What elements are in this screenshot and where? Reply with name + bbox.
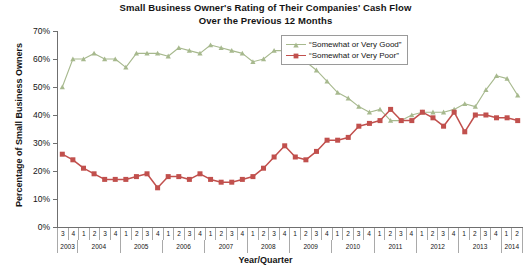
- x-axis-quarter-cell: 1: [459, 228, 470, 240]
- x-axis-quarter-cell: 2: [385, 228, 396, 240]
- chart-title: Small Business Owner's Rating of Their C…: [0, 2, 531, 27]
- data-point-square: [420, 110, 425, 115]
- data-point-square: [155, 185, 160, 190]
- data-point-triangle: [208, 42, 213, 47]
- x-axis-quarter-cell: 1: [206, 228, 217, 240]
- x-axis-quarter-cell: 1: [248, 228, 259, 240]
- y-axis-tick-label: 60%: [33, 54, 50, 64]
- x-axis-year-cell: 2011: [375, 240, 417, 253]
- x-axis-quarter-cell: 4: [407, 228, 418, 240]
- x-axis-quarter-cell: 4: [491, 228, 502, 240]
- series-poor: [60, 107, 520, 190]
- data-point-square: [303, 157, 308, 162]
- data-point-square: [282, 143, 287, 148]
- x-axis-quarter-cell: 2: [216, 228, 227, 240]
- x-axis-year-cell: 2010: [332, 240, 374, 253]
- data-point-square: [229, 180, 234, 185]
- x-axis-quarter-cell: 2: [174, 228, 185, 240]
- data-point-square: [325, 138, 330, 143]
- data-point-triangle: [462, 101, 467, 106]
- x-axis-year-cell: 2007: [205, 240, 247, 253]
- data-point-square: [219, 180, 224, 185]
- x-axis-quarter-cell: 2: [259, 228, 270, 240]
- x-axis-quarter-cell: 3: [354, 228, 365, 240]
- data-point-triangle: [494, 73, 499, 78]
- data-point-square: [60, 152, 65, 157]
- data-point-square: [197, 171, 202, 176]
- data-point-square: [113, 177, 118, 182]
- data-point-square: [473, 113, 478, 118]
- data-point-square: [240, 177, 245, 182]
- chart-title-line-1: Small Business Owner's Rating of Their C…: [0, 2, 531, 15]
- y-axis-tick-label: 10%: [33, 194, 50, 204]
- data-point-square: [356, 124, 361, 129]
- legend-marker-good-icon: [286, 39, 306, 50]
- y-axis-tick-label: 70%: [33, 26, 50, 36]
- data-point-square: [145, 171, 150, 176]
- data-point-square: [187, 177, 192, 182]
- data-point-square: [494, 115, 499, 120]
- data-point-square: [70, 157, 75, 162]
- data-point-square: [346, 135, 351, 140]
- x-axis-quarter-cell: 3: [481, 228, 492, 240]
- x-axis-title: Year/Quarter: [0, 255, 531, 265]
- data-point-square: [92, 171, 97, 176]
- x-axis-quarter-cell: 3: [227, 228, 238, 240]
- x-axis-quarter-cell: 1: [79, 228, 90, 240]
- data-point-square: [176, 174, 181, 179]
- x-axis-quarter-cell: 1: [502, 228, 513, 240]
- x-axis-quarter-cell: 1: [290, 228, 301, 240]
- x-axis-year-cell: 2009: [290, 240, 332, 253]
- data-point-triangle: [346, 96, 351, 101]
- data-point-square: [208, 177, 213, 182]
- x-axis-year-cell: 2012: [417, 240, 459, 253]
- x-axis-quarter-cell: 4: [153, 228, 164, 240]
- data-point-square: [452, 110, 457, 115]
- data-point-square: [378, 118, 383, 123]
- x-axis-quarter-cell: 4: [195, 228, 206, 240]
- legend-marker-poor-icon: [286, 50, 306, 61]
- x-axis-year-cell: 2008: [248, 240, 290, 253]
- data-point-square: [293, 155, 298, 160]
- y-axis-tick-label: 40%: [33, 110, 50, 120]
- legend-item-good: “Somewhat or Very Good”: [286, 39, 401, 50]
- data-point-square: [388, 107, 393, 112]
- x-axis-quarter-cell: 1: [333, 228, 344, 240]
- data-point-square: [314, 149, 319, 154]
- x-axis-quarter-cell: 1: [164, 228, 175, 240]
- square-icon: [293, 53, 299, 59]
- data-point-square: [441, 124, 446, 129]
- x-axis-quarter-cell: 1: [121, 228, 132, 240]
- data-point-square: [335, 138, 340, 143]
- triangle-icon: [293, 42, 299, 48]
- x-axis-quarter-cell: 2: [428, 228, 439, 240]
- x-axis-quarter-cell: 3: [396, 228, 407, 240]
- data-point-triangle: [176, 45, 181, 50]
- legend-label-poor: “Somewhat or Very Poor”: [309, 51, 399, 60]
- x-axis-quarter-cell: 3: [185, 228, 196, 240]
- x-axis-quarter-cell: 2: [343, 228, 354, 240]
- x-axis-year-cell: 2003: [57, 240, 78, 253]
- data-point-square: [430, 115, 435, 120]
- x-axis-quarter-cell: 3: [100, 228, 111, 240]
- x-axis-quarter-cell: 2: [470, 228, 481, 240]
- x-axis-year-cell: 2006: [163, 240, 205, 253]
- chart-container: Small Business Owner's Rating of Their C…: [0, 0, 531, 280]
- data-point-square: [81, 166, 86, 171]
- chart-title-line-2: Over the Previous 12 Months: [0, 15, 531, 28]
- y-axis-tick-label: 0%: [38, 222, 50, 232]
- data-point-square: [123, 177, 128, 182]
- data-point-triangle: [91, 51, 96, 56]
- x-axis-year-cell: 2014: [502, 240, 523, 253]
- data-point-square: [261, 166, 266, 171]
- data-point-square: [515, 118, 520, 123]
- x-axis-quarter-cell: 4: [364, 228, 375, 240]
- y-axis-tick-label: 20%: [33, 166, 50, 176]
- x-axis-quarter-cell: 2: [512, 228, 523, 240]
- x-axis-quarter-cell: 3: [269, 228, 280, 240]
- x-axis-year-cell: 2013: [459, 240, 501, 253]
- x-axis-quarter-cell: 2: [90, 228, 101, 240]
- series-line: [62, 109, 517, 187]
- x-axis-year-cell: 2004: [78, 240, 120, 253]
- x-axis-quarter-cell: 1: [375, 228, 386, 240]
